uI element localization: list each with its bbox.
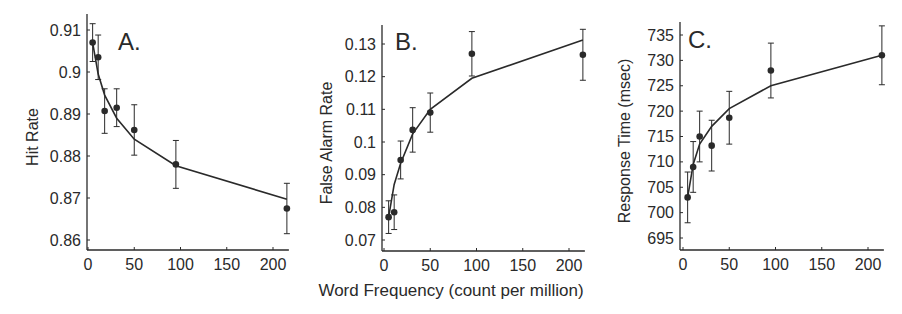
- x-tick-label: 0: [84, 256, 93, 273]
- marker-dot: [409, 127, 416, 134]
- x-tick-label: 200: [260, 256, 287, 273]
- marker-dot: [708, 142, 715, 149]
- y-tick-label: 700: [647, 204, 674, 221]
- y-axis-title: Hit Rate: [24, 108, 41, 166]
- x-tick-label: 100: [762, 256, 789, 273]
- x-tick-label: 150: [808, 256, 835, 273]
- y-tick-label: 695: [647, 230, 674, 247]
- x-tick-label: 0: [679, 256, 688, 273]
- marker-dot: [469, 51, 476, 58]
- y-tick-label: 0.9: [59, 64, 81, 81]
- y-tick-label: 735: [647, 27, 674, 44]
- marker-dot: [427, 109, 434, 116]
- y-tick-label: 705: [647, 179, 674, 196]
- x-tick-label: 0: [380, 257, 389, 274]
- data-point: [708, 120, 715, 171]
- panel-b-false-alarm-rate: 0.070.080.090.10.110.120.13050100150200F…: [318, 25, 586, 274]
- y-tick-label: 710: [647, 153, 674, 170]
- marker-dot: [726, 114, 733, 121]
- y-tick-label: 725: [647, 77, 674, 94]
- panel-letter: B.: [395, 28, 418, 55]
- x-tick-label: 200: [855, 256, 882, 273]
- y-tick-label: 0.87: [50, 190, 81, 207]
- model-fit-line: [688, 55, 882, 197]
- marker-dot: [89, 39, 96, 46]
- data-point: [131, 105, 138, 155]
- data-point: [409, 108, 416, 152]
- data-point: [173, 140, 180, 188]
- y-tick-label: 720: [647, 103, 674, 120]
- marker-dot: [397, 157, 404, 164]
- x-tick-label: 150: [213, 256, 240, 273]
- data-point: [284, 183, 291, 233]
- y-tick-label: 0.08: [345, 199, 376, 216]
- y-tick-label: 730: [647, 52, 674, 69]
- y-tick-label: 715: [647, 128, 674, 145]
- y-tick-label: 0.07: [345, 232, 376, 249]
- figure: 0.860.870.880.890.90.91050100150200Hit R…: [0, 0, 902, 314]
- data-point: [726, 91, 733, 144]
- panel-letter: A.: [118, 28, 141, 55]
- y-tick-label: 0.88: [50, 148, 81, 165]
- data-point: [768, 43, 775, 98]
- y-tick-label: 0.13: [345, 36, 376, 53]
- data-point: [101, 89, 108, 134]
- y-tick-label: 0.12: [345, 68, 376, 85]
- data-point: [95, 35, 102, 80]
- x-tick-label: 50: [421, 257, 439, 274]
- marker-dot: [101, 108, 108, 115]
- panel-a-hit-rate: 0.860.870.880.890.90.91050100150200Hit R…: [24, 14, 290, 273]
- marker-dot: [284, 205, 291, 212]
- x-tick-label: 50: [125, 256, 143, 273]
- marker-dot: [684, 194, 691, 201]
- marker-dot: [385, 214, 392, 221]
- marker-dot: [768, 67, 775, 74]
- panel-c-response-time: 695700705710715720725730735050100150200R…: [616, 22, 885, 273]
- x-tick-label: 150: [509, 257, 536, 274]
- marker-dot: [95, 54, 102, 61]
- data-point: [879, 26, 886, 85]
- marker-dot: [113, 104, 120, 111]
- y-tick-label: 0.1: [354, 134, 376, 151]
- marker-dot: [879, 52, 886, 59]
- data-point: [696, 111, 703, 162]
- y-tick-label: 0.91: [50, 22, 81, 39]
- y-tick-label: 0.11: [346, 101, 376, 118]
- marker-dot: [173, 161, 180, 168]
- data-point: [469, 32, 476, 76]
- data-point: [427, 93, 434, 132]
- y-tick-label: 0.09: [345, 166, 376, 183]
- marker-dot: [391, 209, 398, 216]
- x-tick-label: 100: [463, 257, 490, 274]
- y-axis-title: False Alarm Rate: [318, 82, 335, 205]
- model-fit-line: [389, 40, 583, 217]
- model-fit-line: [93, 43, 287, 200]
- x-tick-label: 200: [556, 257, 583, 274]
- y-axis-title: Response Time (msec): [616, 59, 633, 224]
- panel-letter: C.: [688, 26, 712, 53]
- x-tick-label: 50: [720, 256, 738, 273]
- x-tick-label: 100: [167, 256, 194, 273]
- y-tick-label: 0.86: [50, 232, 81, 249]
- data-point: [690, 142, 697, 193]
- marker-dot: [580, 51, 587, 58]
- data-point: [580, 29, 587, 80]
- y-tick-label: 0.89: [50, 106, 81, 123]
- shared-x-axis-title: Word Frequency (count per million): [0, 281, 902, 301]
- marker-dot: [131, 127, 138, 134]
- marker-dot: [696, 133, 703, 140]
- marker-dot: [690, 164, 697, 171]
